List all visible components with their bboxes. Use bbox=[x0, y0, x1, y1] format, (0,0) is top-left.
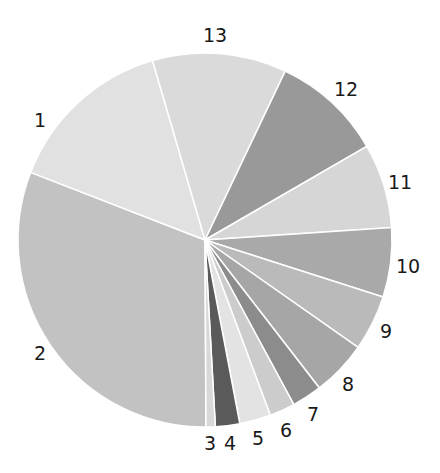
slice-label-12: 12 bbox=[334, 78, 358, 100]
slice-label-2: 2 bbox=[34, 342, 46, 364]
slice-label-5: 5 bbox=[252, 427, 264, 449]
slice-label-9: 9 bbox=[380, 320, 392, 342]
slice-label-3: 3 bbox=[204, 432, 216, 454]
pie-slices bbox=[18, 53, 392, 427]
slice-label-6: 6 bbox=[280, 419, 292, 441]
slice-label-8: 8 bbox=[342, 373, 354, 395]
pie-chart: 12345678910111213 bbox=[0, 0, 440, 473]
slice-label-1: 1 bbox=[34, 109, 46, 131]
slice-label-7: 7 bbox=[307, 403, 319, 425]
slice-label-10: 10 bbox=[396, 255, 420, 277]
slice-label-13: 13 bbox=[203, 24, 227, 46]
slice-label-11: 11 bbox=[388, 171, 412, 193]
slice-label-4: 4 bbox=[224, 432, 236, 454]
